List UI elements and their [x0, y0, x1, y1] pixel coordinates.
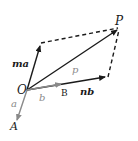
label-B: B — [61, 88, 68, 98]
label-ma: ma — [12, 58, 29, 69]
label-O: O — [17, 83, 27, 97]
label-P: P — [114, 14, 124, 28]
vector-diagram: P O A B ma nb p b a — [0, 0, 138, 141]
dashed-edge-top — [41, 28, 118, 43]
dashed-edge-right — [108, 30, 119, 77]
vector-p — [27, 30, 117, 90]
label-b: b — [39, 92, 45, 103]
label-p: p — [72, 64, 79, 75]
label-A: A — [9, 120, 18, 133]
label-nb: nb — [80, 86, 94, 97]
label-a: a — [11, 98, 17, 109]
